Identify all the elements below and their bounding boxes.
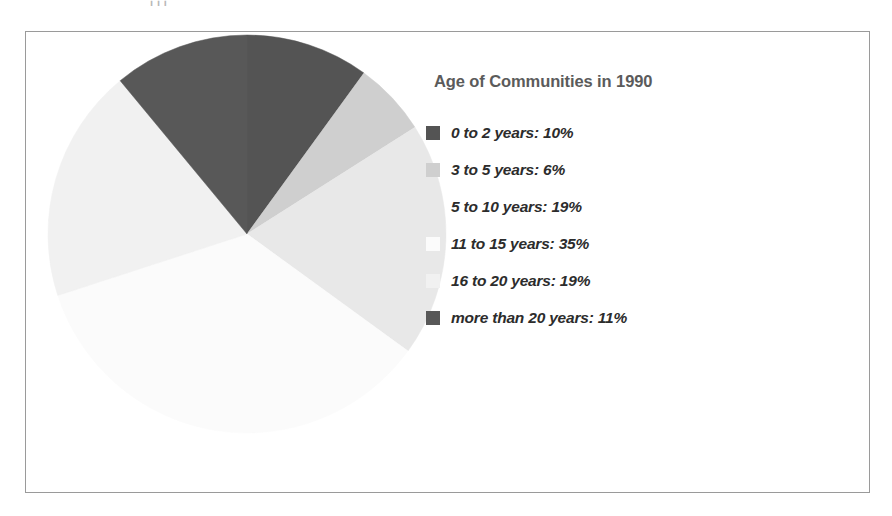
chart-legend: Age of Communities in 1990 0 to 2 years:… [426,72,856,344]
legend-item-label: 0 to 2 years: 10% [451,124,573,142]
legend-swatch-icon [426,311,440,325]
legend-item-16-to-20-years: 16 to 20 years: 19% [426,270,856,292]
legend-item-11-to-15-years: 11 to 15 years: 35% [426,233,856,255]
pie-chart [47,34,447,434]
legend-swatch-icon [426,274,440,288]
legend-item-more-than-20-years: more than 20 years: 11% [426,307,856,329]
legend-item-label: 3 to 5 years: 6% [451,161,565,179]
legend-swatch-icon [426,237,440,251]
legend-title: Age of Communities in 1990 [434,72,856,91]
legend-item-0-to-2-years: 0 to 2 years: 10% [426,122,856,144]
legend-item-3-to-5-years: 3 to 5 years: 6% [426,159,856,181]
legend-swatch-icon [426,126,440,140]
page-cutoff-text-sliver: i i i [150,0,710,6]
legend-item-label: 11 to 15 years: 35% [451,235,589,253]
legend-item-label: 16 to 20 years: 19% [451,272,590,290]
legend-swatch-icon [426,163,440,177]
figure-frame: Age of Communities in 1990 0 to 2 years:… [25,31,870,493]
legend-item-label: more than 20 years: 11% [451,309,627,327]
legend-item-5-to-10-years: 5 to 10 years: 19% [426,196,856,218]
legend-item-label: 5 to 10 years: 19% [451,198,582,216]
legend-swatch-icon [426,200,440,214]
pie-slice-group [48,35,446,433]
pie-chart-area [26,32,466,494]
